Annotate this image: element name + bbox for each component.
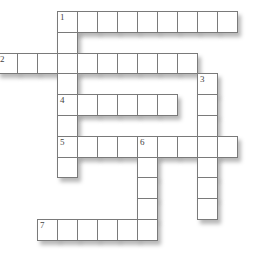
crossword-cell[interactable]: [157, 53, 178, 75]
crossword-cell[interactable]: [77, 53, 98, 75]
crossword-cell[interactable]: [157, 11, 178, 33]
crossword-cell[interactable]: [157, 94, 178, 116]
crossword-cell[interactable]: 5: [57, 136, 78, 158]
crossword-cell[interactable]: [137, 177, 158, 199]
crossword-cell[interactable]: [17, 53, 38, 75]
crossword-cell[interactable]: [117, 136, 138, 158]
crossword-cell[interactable]: [97, 219, 118, 241]
crossword-cell[interactable]: [57, 53, 78, 75]
crossword-cell[interactable]: [97, 94, 118, 116]
crossword-cell[interactable]: [137, 53, 158, 75]
crossword-cell[interactable]: [197, 157, 218, 179]
crossword-cell[interactable]: [57, 32, 78, 54]
crossword-cell[interactable]: [137, 219, 158, 241]
crossword-cell[interactable]: [117, 11, 138, 33]
crossword-cell[interactable]: 6: [137, 136, 158, 158]
crossword-cell[interactable]: [137, 157, 158, 179]
crossword-cell[interactable]: [57, 115, 78, 137]
crossword-cell[interactable]: [97, 11, 118, 33]
crossword-cell[interactable]: [157, 136, 178, 158]
clue-number-label: 3: [200, 74, 205, 84]
crossword-cell[interactable]: [197, 198, 218, 220]
crossword-cell[interactable]: 2: [0, 53, 18, 75]
crossword-cell[interactable]: [217, 11, 238, 33]
crossword-cell[interactable]: [117, 53, 138, 75]
crossword-cell[interactable]: [97, 136, 118, 158]
crossword-cell[interactable]: [77, 94, 98, 116]
clue-number-label: 2: [0, 54, 5, 64]
crossword-cell[interactable]: [37, 53, 58, 75]
clue-number-label: 1: [60, 12, 65, 22]
crossword-cell[interactable]: [137, 198, 158, 220]
crossword-cell[interactable]: [77, 11, 98, 33]
crossword-cell[interactable]: [197, 11, 218, 33]
crossword-cell[interactable]: [57, 73, 78, 95]
crossword-cell[interactable]: [197, 177, 218, 199]
crossword-cell[interactable]: [57, 157, 78, 179]
crossword-cell[interactable]: [137, 94, 158, 116]
clue-number-label: 7: [40, 220, 45, 230]
crossword-cell[interactable]: [117, 219, 138, 241]
crossword-cell[interactable]: 4: [57, 94, 78, 116]
crossword-cell[interactable]: [57, 219, 78, 241]
clue-number-label: 6: [140, 137, 145, 147]
crossword-grid: 1234567: [0, 0, 253, 264]
crossword-cell[interactable]: [117, 94, 138, 116]
crossword-cell[interactable]: [177, 53, 198, 75]
crossword-cell[interactable]: [77, 136, 98, 158]
crossword-cell[interactable]: [97, 53, 118, 75]
crossword-cell[interactable]: [197, 136, 218, 158]
crossword-cell[interactable]: 7: [37, 219, 58, 241]
clue-number-label: 5: [60, 137, 65, 147]
crossword-cell[interactable]: [177, 11, 198, 33]
clue-number-label: 4: [60, 95, 65, 105]
crossword-cell[interactable]: [197, 94, 218, 116]
crossword-cell[interactable]: [137, 11, 158, 33]
crossword-cell[interactable]: 1: [57, 11, 78, 33]
crossword-cell[interactable]: [77, 219, 98, 241]
crossword-cell[interactable]: [197, 115, 218, 137]
crossword-cell[interactable]: [177, 136, 198, 158]
crossword-cell[interactable]: [217, 136, 238, 158]
crossword-cell[interactable]: 3: [197, 73, 218, 95]
